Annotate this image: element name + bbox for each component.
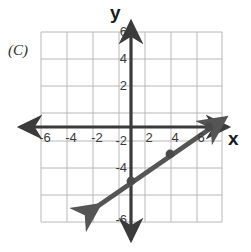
data-point [127,177,136,186]
x-tick-label: 4 [164,130,186,145]
y-tick-label: 6 [101,24,127,39]
graph-figure: (C) y x -6 -4 -2 2 4 6 6 4 2 -2 -4 -6 [0,0,251,252]
y-tick-label: -2 [101,133,127,148]
y-tick-label: 4 [101,51,127,66]
x-tick-label: 2 [138,130,160,145]
x-axis-label: x [228,128,239,150]
y-axis-label: y [110,2,121,24]
panel-label: (C) [8,42,28,59]
y-tick-label: -6 [101,212,127,227]
x-tick-label: -4 [60,130,82,145]
y-tick-label: 2 [101,78,127,93]
x-tick-label: -6 [34,130,56,145]
data-point [166,150,175,159]
y-tick-label: -4 [101,160,127,175]
x-tick-label: 6 [190,130,212,145]
